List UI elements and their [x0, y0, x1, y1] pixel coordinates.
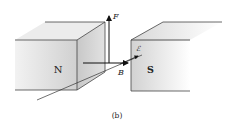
north-pole-label: N [54, 64, 63, 75]
south-magnet-top [131, 22, 222, 40]
south-magnet: S [131, 22, 222, 91]
force-label: F [112, 12, 119, 21]
figure-caption: (b) [112, 111, 123, 120]
south-pole-label: S [147, 64, 154, 75]
field-label: B [117, 68, 124, 77]
north-magnet: N [15, 22, 105, 90]
induction-diagram: N S ℰ B F (b) [0, 0, 234, 126]
north-magnet-front [15, 40, 77, 90]
